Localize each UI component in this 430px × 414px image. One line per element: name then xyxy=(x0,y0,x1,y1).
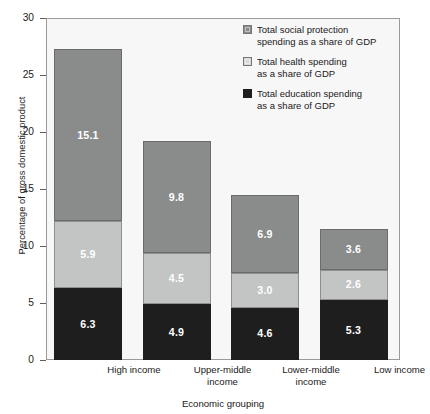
legend-label: Total social protectionspending as a sha… xyxy=(257,24,376,47)
y-tick: 30 xyxy=(0,13,46,23)
bar-segment-educ: 6.3 xyxy=(54,288,122,360)
chart-legend: Total social protectionspending as a sha… xyxy=(243,24,403,120)
legend-swatch-educ-icon xyxy=(243,89,252,98)
bar-segment-educ: 5.3 xyxy=(320,300,388,360)
bar-group: 6.35.915.1 xyxy=(54,18,122,360)
bar-segment-health: 4.5 xyxy=(143,253,211,304)
x-tick-label: Low income xyxy=(340,364,430,376)
legend-label-line1: Total social protection xyxy=(257,24,376,36)
bar-segment-health: 3.0 xyxy=(231,273,299,307)
bar-value-label: 5.9 xyxy=(80,249,95,260)
bar-value-label: 4.9 xyxy=(169,327,184,338)
bar-value-label: 9.8 xyxy=(169,192,184,203)
bar-value-label: 3.0 xyxy=(257,285,272,296)
legend-label-line1: Total education spending xyxy=(257,88,362,100)
bar-segment-social: 15.1 xyxy=(54,49,122,221)
legend-item-health: Total health spendingas a share of GDP xyxy=(243,56,403,79)
bar-segment-educ: 4.9 xyxy=(143,304,211,360)
legend-label-line2: as a share of GDP xyxy=(257,68,347,80)
bar-segment-health: 5.9 xyxy=(54,221,122,288)
x-axis-title: Economic grouping xyxy=(46,398,400,409)
bar-segment-health: 2.6 xyxy=(320,270,388,300)
legend-label-line2: spending as a share of GDP xyxy=(257,36,376,48)
bar-segment-social: 3.6 xyxy=(320,229,388,270)
legend-item-educ: Total education spendingas a share of GD… xyxy=(243,88,403,111)
legend-swatch-social-icon xyxy=(243,25,252,34)
y-tick-mark xyxy=(40,360,46,361)
legend-label: Total education spendingas a share of GD… xyxy=(257,88,362,111)
bar-segment-social: 6.9 xyxy=(231,195,299,274)
y-tick-label: 0 xyxy=(0,355,34,365)
legend-label-line1: Total health spending xyxy=(257,56,347,68)
bar-value-label: 4.5 xyxy=(169,273,184,284)
y-axis-title: Percentage of gross domestic product xyxy=(16,51,27,301)
legend-swatch-health-icon xyxy=(243,57,252,66)
x-tick-label-line1: Low income xyxy=(340,364,430,376)
legend-item-social: Total social protectionspending as a sha… xyxy=(243,24,403,47)
bar-value-label: 6.9 xyxy=(257,229,272,240)
bar-group: 4.94.59.8 xyxy=(143,18,211,360)
bar-value-label: 6.3 xyxy=(80,319,95,330)
legend-label: Total health spendingas a share of GDP xyxy=(257,56,347,79)
cropped-supertitle xyxy=(0,0,412,6)
bar-segment-social: 9.8 xyxy=(143,141,211,253)
bar-value-label: 15.1 xyxy=(77,130,98,141)
bar-value-label: 3.6 xyxy=(346,244,361,255)
bar-value-label: 2.6 xyxy=(346,279,361,290)
bar-segment-educ: 4.6 xyxy=(231,308,299,360)
bar-value-label: 5.3 xyxy=(346,325,361,336)
bar-value-label: 4.6 xyxy=(257,328,272,339)
y-tick: 0 xyxy=(0,355,46,365)
x-axis-labels: High incomeUpper-middleincomeLower-middl… xyxy=(46,364,400,398)
legend-label-line2: as a share of GDP xyxy=(257,100,362,112)
y-tick-label: 30 xyxy=(0,13,34,23)
x-tick-label-line2: income xyxy=(251,376,371,388)
